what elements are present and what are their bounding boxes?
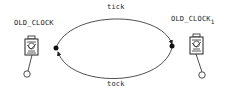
right-node-label: OLD_CLOCK1 <box>171 15 215 25</box>
left-state-dot <box>54 46 59 51</box>
tock-label-text: tock <box>107 80 125 88</box>
left-node-label: OLD_CLOCK <box>14 19 54 27</box>
left-node-label-text: OLD_CLOCK <box>14 19 54 27</box>
tick-label-text: tick <box>107 3 125 11</box>
tock-transition-arc <box>58 48 172 79</box>
pendulum-clock-icon <box>24 36 38 77</box>
transition-diagram <box>0 0 236 92</box>
right-node-subscript: 1 <box>211 18 215 25</box>
tock-edge-label: tock <box>107 80 125 88</box>
right-node-label-text: OLD_CLOCK <box>171 15 211 23</box>
tick-transition-arc <box>56 19 172 48</box>
pendulum-clock-icon <box>190 34 205 78</box>
tick-edge-label: tick <box>107 3 125 11</box>
right-state-dot <box>170 44 175 49</box>
